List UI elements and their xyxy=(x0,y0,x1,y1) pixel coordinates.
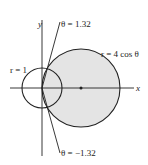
center-point xyxy=(80,87,83,90)
large-circle-label: r = 4 cos θ xyxy=(101,49,139,59)
small-circle-label: r = 1 xyxy=(10,65,27,75)
polar-diagram: y x θ = 1.32 θ = −1.32 r = 1 r = 4 cos θ xyxy=(0,0,148,165)
x-axis-label: x xyxy=(135,83,140,93)
theta-upper-label: θ = 1.32 xyxy=(61,19,91,29)
y-axis-label: y xyxy=(37,19,42,29)
theta-lower-label: θ = −1.32 xyxy=(61,148,96,158)
